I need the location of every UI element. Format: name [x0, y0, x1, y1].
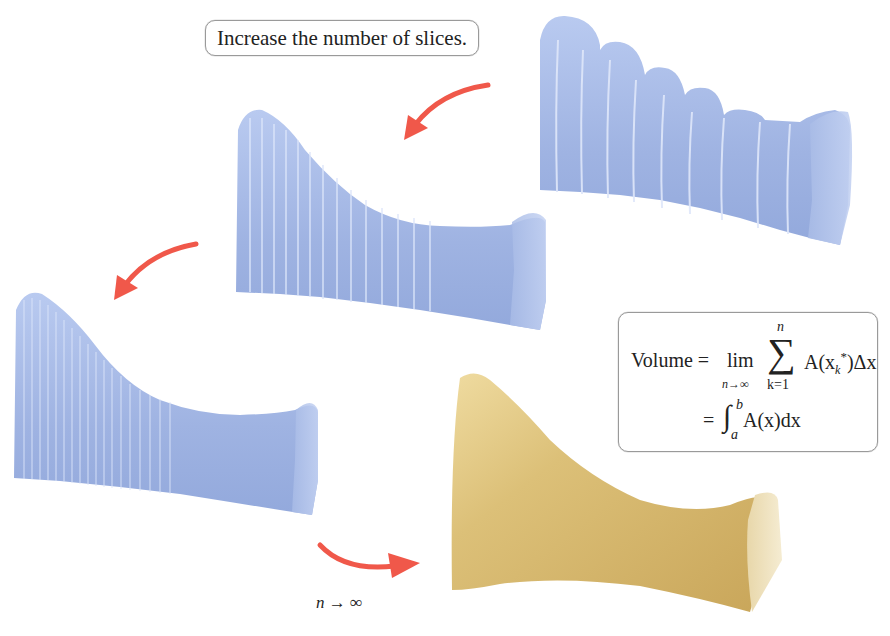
arrow-icon-1 — [404, 85, 488, 140]
limit-label: n → ∞ — [316, 593, 362, 613]
formula-summand-head: A(x — [804, 351, 835, 373]
volume-formula-box: Volume = lim n→∞ n ∑ k=1 A(xk*)Δx = b ∫ … — [618, 312, 878, 452]
formula-lim-subscript: n→∞ — [722, 377, 749, 392]
formula-equals: = — [698, 349, 709, 371]
solid-few-slices — [540, 16, 852, 245]
formula-int-upper: b — [736, 397, 743, 413]
formula-int-lower: a — [731, 427, 738, 443]
arrow-icon-3 — [320, 545, 420, 578]
formula-sigma: ∑ — [767, 333, 796, 373]
formula-sum-lower: k=1 — [767, 377, 789, 393]
formula-volume-label: Volume — [631, 349, 693, 371]
callout-increase-slices: Increase the number of slices. — [205, 20, 479, 56]
formula-summand-sub: k — [835, 363, 840, 377]
solid-more-slices — [236, 110, 546, 330]
callout-text: Increase the number of slices. — [217, 26, 467, 50]
formula-lhs: Volume = — [631, 349, 709, 372]
formula-lim: lim — [727, 349, 754, 372]
arrow-icon-2 — [114, 244, 196, 300]
solid-many-slices — [14, 293, 318, 515]
formula-summand-tail: )Δx — [847, 351, 877, 373]
formula-integral-sign: ∫ — [723, 401, 731, 431]
formula-line2-equals: = — [703, 409, 714, 432]
formula-summand: A(xk*)Δx — [804, 349, 876, 378]
formula-integrand: A(x)dx — [743, 409, 801, 432]
